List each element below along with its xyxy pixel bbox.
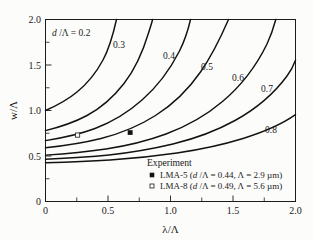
legend-heading: Experiment (147, 157, 192, 168)
curve-label-0.8: 0.8 (265, 125, 277, 135)
curve-label-0.4: 0.4 (163, 51, 175, 61)
legend-entry-lma-5: LMA-5 (d /Λ = 0.44, Λ = 2.9 µm) (160, 170, 282, 180)
x-tick-label-1: 0.5 (102, 205, 115, 216)
x-tick-label-0: 0 (43, 205, 48, 216)
legend-marker-filled-square (150, 173, 154, 177)
legend-entry-lma-8: LMA-8 (d /Λ = 0.49, Λ = 5.6 µm) (160, 181, 282, 191)
legend: Experiment LMA-5 (d /Λ = 0.44, Λ = 2.9 µ… (147, 157, 282, 191)
curve-label-0.3: 0.3 (113, 40, 125, 50)
legend-entry-param-rest-0: /Λ = 0.44, Λ = 2.9 µm) (197, 170, 282, 180)
y-tick-label-4: 2.0 (29, 14, 42, 25)
curve-label-0.5: 0.5 (201, 62, 213, 72)
curve-d-0.5 (46, 20, 229, 148)
y-tick-labels: 2.0 1.5 1.0 0.5 0 (29, 14, 42, 207)
data-point-lma-8[interactable] (76, 133, 80, 137)
x-axis-ticks (46, 196, 296, 202)
y-axis-title: w/Λ (7, 101, 19, 120)
y-tick-label-1: 0.5 (29, 151, 42, 162)
y-tick-label-0: 0 (36, 196, 41, 207)
chart-canvas: 2.0 1.5 1.0 0.5 0 0 0.5 1.0 1.5 2.0 λ/Λ … (0, 0, 313, 240)
y-tick-label-2: 1.0 (29, 105, 42, 116)
legend-entry-param-rest-1: /Λ = 0.49, Λ = 5.6 µm) (197, 181, 282, 191)
curve-label-param-rest: /Λ = (57, 28, 79, 38)
legend-entry-name-1: LMA-8 (160, 181, 188, 191)
x-tick-labels: 0 0.5 1.0 1.5 2.0 (43, 205, 302, 216)
curve-label-0.6: 0.6 (232, 73, 244, 83)
curve-labels-group: d /Λ = 0.2 0.3 0.4 0.5 0.6 0.7 0.8 (52, 28, 277, 135)
curves-group (46, 20, 296, 163)
x-tick-label-3: 1.5 (227, 205, 240, 216)
figure-container: 2.0 1.5 1.0 0.5 0 0 0.5 1.0 1.5 2.0 λ/Λ … (0, 0, 313, 240)
y-tick-label-3: 1.5 (29, 60, 42, 71)
x-tick-label-2: 1.0 (164, 205, 177, 216)
curve-label-0.7: 0.7 (261, 84, 273, 94)
curve-d-0.7 (46, 60, 296, 159)
curve-label-value-0: 0.2 (79, 28, 91, 38)
data-point-lma-5[interactable] (128, 131, 132, 135)
legend-entry-name-0: LMA-5 (160, 170, 188, 180)
legend-marker-open-square (150, 184, 154, 188)
curve-d-0.8 (46, 115, 296, 163)
curve-label-0.2: d /Λ = 0.2 (52, 28, 91, 38)
x-axis-title: λ/Λ (162, 223, 178, 235)
x-tick-label-4: 2.0 (289, 205, 302, 216)
